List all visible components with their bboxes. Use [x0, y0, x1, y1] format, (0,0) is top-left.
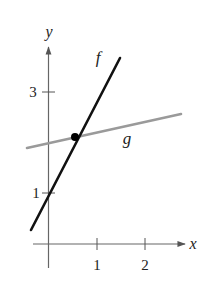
x-tick-label-2: 2 [141, 257, 149, 273]
y-tick-label-3: 3 [29, 84, 37, 100]
y-axis-label: y [43, 23, 53, 41]
x-axis-label: x [188, 235, 196, 252]
x-tick-label-1: 1 [93, 257, 101, 273]
series-g-label: g [123, 129, 132, 148]
series-f-label: f [96, 48, 103, 67]
y-tick-label-1: 1 [32, 185, 40, 201]
intersection-point [71, 133, 79, 141]
series-g-line [27, 114, 181, 148]
chart: 1 2 1 3 x y f g [0, 0, 205, 287]
